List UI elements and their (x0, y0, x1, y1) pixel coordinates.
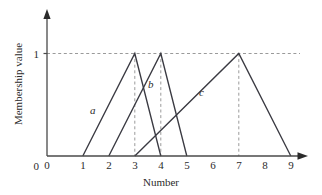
x-tick-label-5: 5 (176, 160, 198, 171)
y-axis-arrowhead-icon (43, 9, 50, 19)
curve-label-a: a (90, 104, 96, 116)
y-tick-label-1: 1 (25, 48, 39, 60)
x-tick-label-7: 7 (228, 160, 250, 171)
curve-label-b: b (148, 78, 154, 90)
x-tick-label-1: 1 (72, 160, 94, 171)
x-tick-label-0: 0 (36, 160, 58, 171)
curve-label-c: c (199, 86, 204, 98)
x-tick-label-6: 6 (202, 160, 224, 171)
x-tick-label-2: 2 (98, 160, 120, 171)
series-curve-c (135, 54, 291, 157)
fuzzy-membership-chart: 1 0 0 1 2 3 4 5 6 7 8 9 a b c Number Mem… (0, 0, 322, 195)
x-tick-label-3: 3 (124, 160, 146, 171)
x-tick-label-9: 9 (280, 160, 302, 171)
x-axis-title: Number (0, 176, 322, 188)
x-axis-arrowhead-icon (298, 152, 309, 160)
x-tick-label-4: 4 (150, 160, 172, 171)
y-axis-title: Membership value (12, 24, 24, 144)
x-tick-label-8: 8 (254, 160, 276, 171)
